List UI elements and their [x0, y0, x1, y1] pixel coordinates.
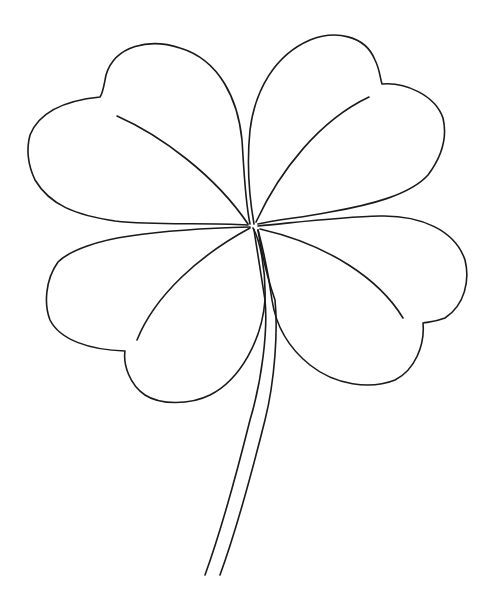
top-left-leaf	[28, 44, 250, 225]
bottom-right-leaf	[258, 216, 467, 385]
clover-drawing	[0, 0, 499, 610]
bottom-left-leaf	[46, 227, 265, 403]
top-right-leaf	[248, 35, 444, 224]
clover-icon	[0, 0, 499, 610]
